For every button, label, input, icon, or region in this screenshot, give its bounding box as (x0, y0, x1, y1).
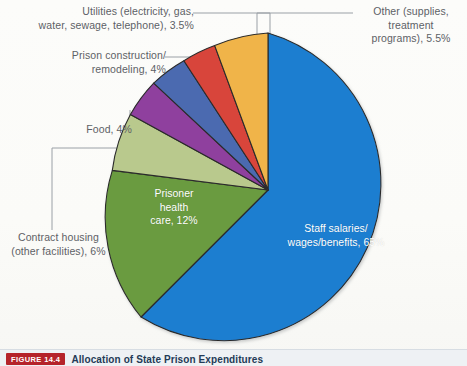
label-prison-construction: Prison construction/ remodeling, 4% (22, 49, 166, 76)
label-prisoner-health-care: Prisoner health care, 12% (133, 187, 215, 228)
label-utilities: Utilities (electricity, gas, water, sewa… (22, 5, 194, 32)
label-contract-housing: Contract housing (other facilities), 6% (2, 231, 115, 258)
figure-caption-title: Allocation of State Prison Expenditures (71, 354, 263, 365)
label-food: Food, 4% (30, 123, 132, 137)
figure-pie-chart: Utilities (electricity, gas, water, sewa… (0, 0, 467, 366)
figure-number-badge: FIGURE 14.4 (6, 353, 65, 365)
figure-caption-bar: FIGURE 14.4 Allocation of State Prison E… (0, 349, 467, 366)
label-other: Other (supplies, treatment programs), 5.… (356, 5, 466, 46)
label-staff-salaries: Staff salaries/ wages/benefits, 65% (272, 222, 400, 249)
